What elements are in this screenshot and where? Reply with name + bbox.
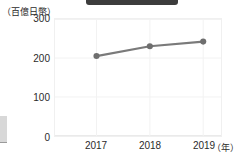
- grid-lines: [55, 19, 221, 136]
- chart-title-bar-clipped: [86, 0, 178, 5]
- y-tick-0: 0: [2, 132, 50, 143]
- y-tick-200: 200: [2, 52, 50, 63]
- data-point-2017: [93, 53, 99, 59]
- chart-screenshot: （百億日幣） 300 200 100 0: [0, 0, 239, 162]
- plot-area: [54, 18, 222, 137]
- y-tick-100: 100: [2, 92, 50, 103]
- data-point-2019: [200, 39, 206, 45]
- x-axis-tick-labels: 2017 2018 2019: [54, 140, 222, 156]
- line-chart-svg: [55, 19, 221, 136]
- x-tick-2018: 2018: [139, 140, 161, 151]
- x-tick-2017: 2017: [85, 140, 107, 151]
- y-axis-tick-labels: 300 200 100 0: [0, 18, 50, 137]
- data-point-2018: [147, 43, 153, 49]
- y-tick-300: 300: [2, 13, 50, 24]
- x-axis-unit-label: （年）: [212, 141, 239, 154]
